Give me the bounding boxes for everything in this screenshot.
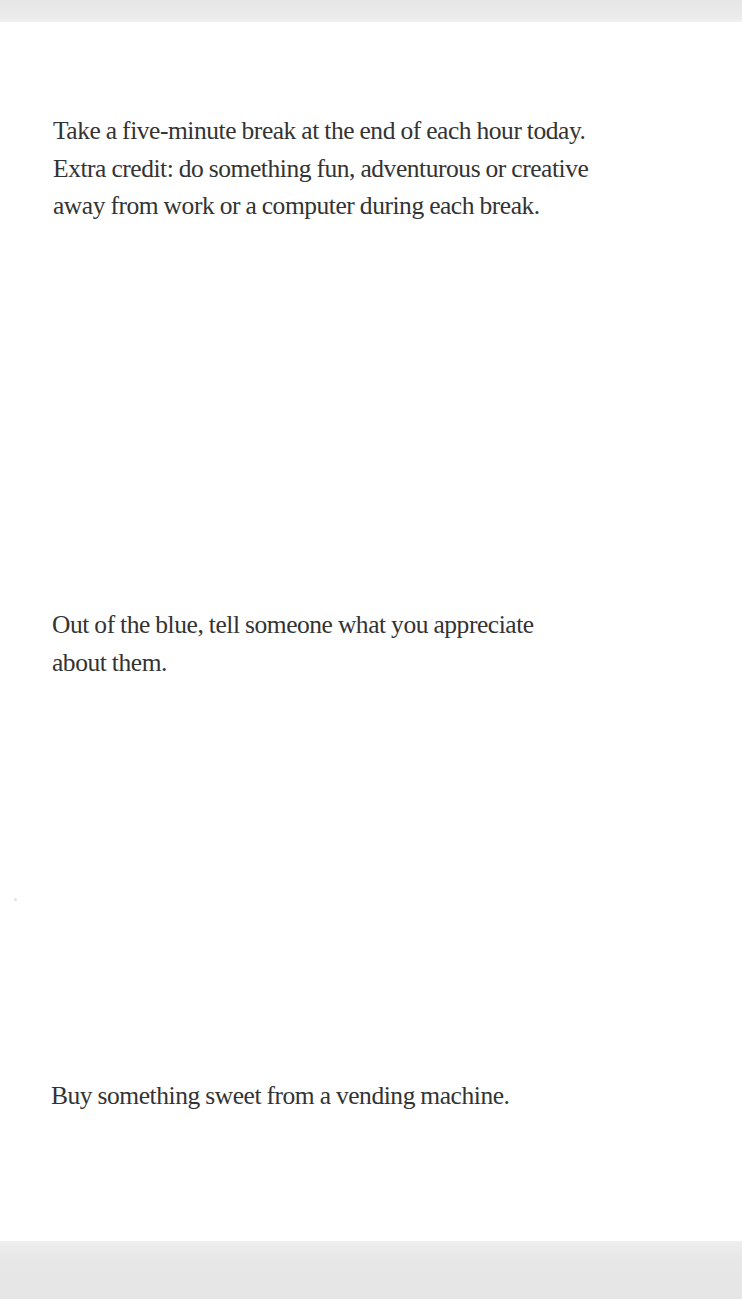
prompt-appreciate-someone: Out of the blue, tell someone what you a… — [52, 606, 672, 681]
prompt-take-break: Take a five-minute break at the end of e… — [53, 112, 713, 225]
scan-edge-top — [0, 0, 742, 22]
scan-speck — [14, 898, 17, 901]
scan-edge-bottom — [0, 1241, 742, 1299]
prompt-buy-something-sweet: Buy something sweet from a vending machi… — [51, 1077, 671, 1115]
